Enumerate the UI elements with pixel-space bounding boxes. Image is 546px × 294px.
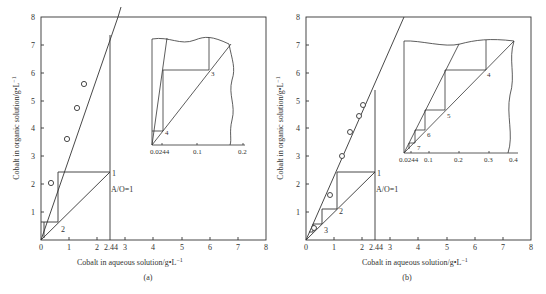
xlabel-b: Cobalt in aqueous solution/g•L−1 [362, 257, 468, 267]
ytick-b-8: 8 [296, 13, 300, 22]
inset-stage-b-6: 6 [427, 131, 431, 139]
ytick-b-4: 4 [296, 124, 300, 133]
ylabel-b: Cobalt in organic solution/g•L−1 [275, 76, 285, 179]
stage-b-3: 3 [324, 226, 328, 235]
ytick-b-6: 6 [296, 69, 300, 78]
xtick-a-7: 7 [236, 243, 240, 252]
figure: 8 7 6 5 4 3 2 1 0 1 2 2.44 3 4 5 6 7 8 C… [0, 0, 546, 294]
stage-b-2: 2 [339, 207, 343, 216]
ao-label-a: A/O=1 [111, 185, 133, 194]
xtick-b-2: 2 [360, 243, 364, 252]
ytick-a-3: 3 [31, 152, 35, 161]
inset-stage-b-7: 7 [417, 144, 421, 152]
inset-xtick-b-2: 0.2 [454, 156, 463, 164]
inset-stage-a-4: 4 [165, 129, 169, 137]
ytick-a-1: 1 [31, 208, 35, 217]
ytick-a-8: 8 [31, 13, 35, 22]
stage-a-1: 1 [112, 169, 116, 178]
ylabel-a: Cobalt in organic solution/g•L−1 [11, 76, 21, 179]
xtick-a-3: 3 [123, 243, 127, 252]
inset-xtick-a-0: 0.0244 [150, 148, 170, 156]
xlabel-a: Cobalt in aqueous solution/g•L−1 [77, 257, 183, 267]
y-ticks-b [306, 45, 309, 212]
ytick-b-5: 5 [296, 97, 300, 106]
caption-b: (b) [402, 273, 412, 282]
equilibrium-line-a [41, 17, 118, 240]
xtick-a-0: 0 [39, 243, 43, 252]
xtick-b-0: 0 [304, 243, 308, 252]
xtick-a-2: 2 [95, 243, 99, 252]
stage-steps-b [309, 172, 375, 232]
xtick-b-1: 1 [332, 243, 336, 252]
inset-stage-b-5: 5 [447, 112, 451, 120]
operating-line-b [306, 172, 375, 240]
ytick-a-6: 6 [31, 69, 35, 78]
ytick-b-2: 2 [296, 180, 300, 189]
xtick-a-8: 8 [264, 243, 268, 252]
ytick-b-3: 3 [296, 152, 300, 161]
ytick-b-1: 1 [296, 208, 300, 217]
xtick-a-1: 1 [67, 243, 71, 252]
ytick-a-7: 7 [31, 41, 35, 50]
ytick-a-5: 5 [31, 97, 35, 106]
inset-xtick-b-3: 0.3 [484, 156, 493, 164]
xtick-b-244: 2.44 [369, 243, 383, 252]
xtick-b-8: 8 [529, 243, 533, 252]
inset-stage-b-4: 4 [487, 71, 491, 79]
inset-xtick-b-0: 0.0244 [399, 156, 419, 164]
xtick-a-5: 5 [180, 243, 184, 252]
ytick-a-4: 4 [31, 124, 35, 133]
xtick-b-5: 5 [445, 243, 449, 252]
xtick-b-7: 7 [501, 243, 505, 252]
inset-xtick-a-2: 0.2 [238, 148, 247, 156]
panel-a-text: 8 7 6 5 4 3 2 1 0 1 2 2.44 3 4 5 6 7 8 C… [11, 13, 268, 282]
stage-b-1: 1 [377, 169, 381, 178]
inset-xtick-b-1: 0.1 [424, 156, 433, 164]
xtick-b-3: 3 [388, 243, 392, 252]
inset-b [404, 40, 518, 153]
data-points-a [48, 81, 86, 185]
inset-xtick-b-4: 0.4 [509, 156, 518, 164]
xtick-b-4: 4 [416, 243, 420, 252]
inset-xtick-a-1: 0.1 [193, 148, 202, 156]
xtick-a-6: 6 [208, 243, 212, 252]
ytick-b-7: 7 [296, 41, 300, 50]
ytick-a-2: 2 [31, 180, 35, 189]
equilibrium-line-b [306, 17, 404, 240]
xtick-b-6: 6 [473, 243, 477, 252]
inset-stage-a-3: 3 [211, 70, 215, 78]
caption-a: (a) [144, 273, 153, 282]
stage-a-2: 2 [61, 225, 65, 234]
xtick-a-244: 2.44 [104, 243, 118, 252]
stage-steps-a [41, 172, 110, 222]
ao-label-b: A/O=1 [376, 185, 398, 194]
panel-a [41, 7, 266, 240]
xtick-a-4: 4 [151, 243, 155, 252]
